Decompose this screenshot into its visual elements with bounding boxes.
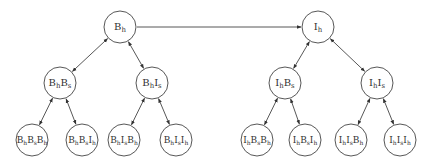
node-BhIs: BhIs [136, 67, 168, 99]
nodes: BhIhBhBsBhIsIhBsIhIsBhBsBhBhBsIhBhIsBhBh… [16, 11, 416, 156]
node-label: BhBsBh [17, 135, 48, 146]
edge-BhBs-BhBsBh [39, 98, 52, 124]
edge-Ih-IhIs [330, 39, 364, 72]
node-Ih: Ih [302, 11, 334, 43]
node-Bh: Bh [104, 11, 136, 43]
node-IhBsBh: IhBsBh [241, 124, 273, 156]
node-BhBsBh: BhBsBh [16, 124, 48, 156]
edge-BhIs-BhIsBh [131, 98, 144, 124]
node-BhIsBh: BhIsBh [108, 124, 140, 156]
edge-IhBs-IhBsIh [291, 99, 300, 124]
node-IhIsBh: IhIsBh [335, 124, 367, 156]
node-IhIsIh: IhIsIh [384, 124, 416, 156]
edge-BhBs-BhBsIh [66, 99, 76, 124]
node-BhBsIh: BhBsIh [66, 124, 98, 156]
node-label: BhIsBh [110, 135, 138, 146]
node-IhBs: IhBs [269, 67, 301, 99]
edge-IhBs-IhBsBh [264, 98, 277, 124]
node-BhBs: BhBs [44, 67, 76, 99]
node-BhIsIh: BhIsIh [160, 124, 192, 156]
node-IhBsIh: IhBsIh [289, 124, 321, 156]
node-IhIs: IhIs [361, 67, 393, 99]
node-label: BhBsIh [68, 135, 96, 146]
edge-Bh-BhIs [128, 42, 143, 68]
edge-BhIs-BhIsIh [159, 99, 170, 125]
edge-IhIs-IhIsIh [383, 99, 393, 124]
edge-IhIs-IhIsBh [358, 98, 370, 124]
edge-Ih-IhBs [294, 42, 310, 69]
edge-Bh-BhBs [72, 39, 107, 72]
tree-diagram: BhIhBhBsBhIsIhBsIhIsBhBsBhBhBsIhBhIsBhBh… [0, 0, 437, 165]
edges [39, 27, 393, 125]
